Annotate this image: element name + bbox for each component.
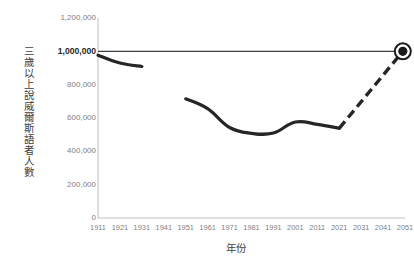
plot-area bbox=[0, 0, 414, 264]
axis-lines bbox=[98, 18, 405, 218]
data-line-projection bbox=[339, 51, 403, 128]
target-marker bbox=[395, 43, 411, 59]
data-line-historic-late bbox=[186, 99, 340, 135]
target-marker-dot bbox=[398, 47, 407, 56]
chart-container: 三歲以上說威爾斯語者人數 1,200,0001,000,000800,00060… bbox=[0, 0, 414, 264]
data-line-historic-early bbox=[98, 55, 142, 66]
x-axis-title: 年份 bbox=[0, 240, 414, 255]
